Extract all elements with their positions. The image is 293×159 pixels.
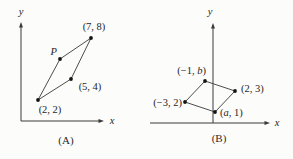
vertex-label: (2, 2) xyxy=(39,104,62,116)
quadrilateral-edge xyxy=(185,81,205,102)
vertex-label: (a, 1) xyxy=(220,107,243,119)
y-axis-label: y xyxy=(207,6,213,17)
axis-arrowhead-icon xyxy=(19,22,23,28)
vertex-dot xyxy=(89,36,93,40)
vertex-dot xyxy=(36,98,40,102)
y-axis-label: y xyxy=(18,6,24,17)
axis-arrowhead-icon xyxy=(265,121,271,125)
vertex-label: (−1, b) xyxy=(177,65,206,77)
vertex-dot xyxy=(58,57,62,61)
x-axis-label: x xyxy=(274,117,280,128)
x-axis-label: x xyxy=(109,115,115,126)
vertex-dot xyxy=(69,77,73,81)
vertex-label: (5, 4) xyxy=(79,81,102,93)
quadrilateral-edge xyxy=(38,79,71,100)
vertex-dot xyxy=(233,89,237,93)
vertex-dot xyxy=(203,79,207,83)
axis-arrowhead-icon xyxy=(211,23,215,29)
quadrilateral-edge xyxy=(205,81,235,91)
vertex-label: (7, 8) xyxy=(83,21,106,33)
quadrilateral-edge xyxy=(71,38,91,79)
panel-a-caption: (A) xyxy=(36,134,96,146)
vertex-label: (2, 3) xyxy=(241,83,264,95)
axis-arrowhead-icon xyxy=(99,119,105,123)
vertex-dot xyxy=(213,110,217,114)
quadrilateral-edge xyxy=(185,102,215,112)
quadrilateral-edge xyxy=(38,59,60,100)
vertex-dot xyxy=(183,100,187,104)
vertex-label: P xyxy=(50,46,58,57)
geometry-figure: yx(2, 2)P(7, 8)(5, 4)yx(−3, 2)(−1, b)(2,… xyxy=(0,0,293,159)
panel-B: yx(−3, 2)(−1, b)(2, 3)(a, 1) xyxy=(150,6,280,128)
panel-b-caption: (B) xyxy=(189,132,249,144)
vertex-label: (−3, 2) xyxy=(153,97,182,109)
panel-A: yx(2, 2)P(7, 8)(5, 4) xyxy=(18,6,115,126)
